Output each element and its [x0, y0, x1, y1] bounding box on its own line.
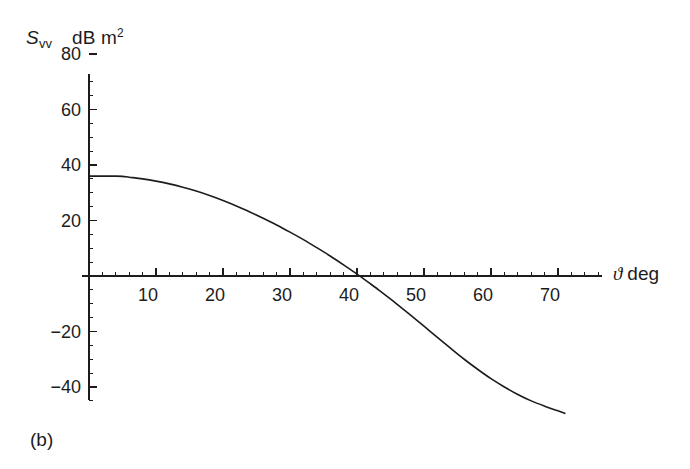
- data-series-group: [89, 176, 565, 413]
- y-tick-label: 80: [35, 45, 81, 63]
- chart-canvas: [0, 0, 690, 469]
- x-tick-label: 10: [138, 286, 158, 304]
- axes: [82, 74, 602, 400]
- y-tick-label: 20: [35, 212, 81, 230]
- series-line-svv: [89, 176, 565, 413]
- x-tick-label: 20: [205, 286, 225, 304]
- y-axis-ticks: [89, 54, 97, 401]
- x-axis-ticks: [89, 268, 598, 276]
- x-axis-units: deg: [627, 263, 659, 284]
- y-tick-label: −40: [35, 378, 81, 396]
- x-tick-label: 70: [540, 286, 560, 304]
- y-tick-label: 60: [35, 101, 81, 119]
- y-tick-label: 40: [35, 156, 81, 174]
- figure-panel-b: SvvdB m2 ϑdeg (b) 1020304050607080604020…: [0, 0, 690, 469]
- x-tick-label: 50: [406, 286, 426, 304]
- x-tick-label: 60: [473, 286, 493, 304]
- x-tick-label: 40: [339, 286, 359, 304]
- y-tick-label: −20: [35, 323, 81, 341]
- panel-caption: (b): [30, 430, 53, 449]
- x-axis-symbol: ϑ: [613, 263, 622, 284]
- x-axis-title: ϑdeg: [613, 264, 659, 283]
- y-axis-units-exponent: 2: [117, 26, 124, 40]
- x-tick-label: 30: [272, 286, 292, 304]
